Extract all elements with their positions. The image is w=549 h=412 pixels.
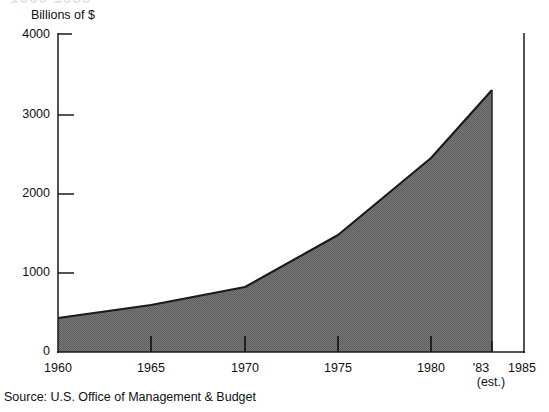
y-tick-label-1000: 1000 bbox=[4, 266, 50, 279]
chart-plot-area bbox=[0, 0, 549, 412]
y-tick-label-3000: 3000 bbox=[4, 108, 50, 121]
y-tick-label-2000: 2000 bbox=[4, 187, 50, 200]
x-tick-label-1970: 1970 bbox=[216, 361, 274, 375]
x-tick-label-1985: 1985 bbox=[497, 361, 547, 375]
x-tick-label-1975: 1975 bbox=[309, 361, 367, 375]
y-tick-label-0: 0 bbox=[4, 345, 50, 358]
y-tick-label-4000: 4000 bbox=[4, 28, 50, 41]
chart-figure: 1960-1985 Billions of $ bbox=[0, 0, 549, 412]
source-note: Source: U.S. Office of Management & Budg… bbox=[4, 390, 256, 405]
area-series-fill bbox=[58, 90, 492, 352]
x-tick-label-1965: 1965 bbox=[122, 361, 180, 375]
x-tick-label-1983-est: (est.) bbox=[462, 375, 520, 389]
x-tick-label-1983: '83 bbox=[464, 361, 498, 375]
x-tick-label-1980: 1980 bbox=[402, 361, 460, 375]
x-tick-label-1960: 1960 bbox=[29, 361, 87, 375]
